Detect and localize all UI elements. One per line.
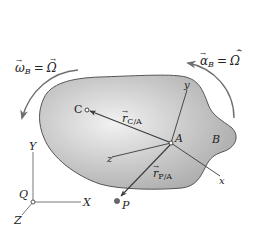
svg-text:αB=Ω: αB=Ω [200, 54, 240, 69]
fixed-z-axis-line [22, 202, 33, 215]
label-fixed-x: X [82, 196, 92, 209]
rigid-body-b [40, 75, 237, 189]
label-c: C [74, 103, 82, 116]
label-x-axis: x [219, 175, 225, 186]
label-z-axis: z [106, 153, 113, 164]
svg-text:→: → [122, 108, 128, 116]
label-y-axis: y [183, 79, 190, 90]
label-p: P [121, 199, 130, 212]
label-fixed-y: Y [29, 140, 38, 153]
label-angular-velocity: ωB=Ω → → [15, 56, 57, 76]
point-p-marker [114, 198, 119, 203]
svg-text:→: → [16, 57, 22, 65]
label-q: Q [19, 188, 28, 201]
svg-text:→: → [200, 50, 206, 58]
svg-text:→: → [236, 47, 242, 55]
svg-text:→: → [153, 163, 159, 171]
rigid-body-diagram: C A P Q B y x z Y X Z rC/A → rP/A → ωB=Ω… [0, 0, 256, 229]
label-fixed-z: Z [13, 214, 22, 227]
label-angular-acceleration: αB=Ω → → [200, 47, 242, 69]
label-a: A [174, 132, 183, 145]
point-q-marker [31, 200, 35, 204]
label-body-b: B [211, 133, 220, 146]
svg-text:→: → [50, 56, 56, 64]
point-a-marker [169, 141, 173, 145]
point-c-marker [85, 108, 89, 112]
